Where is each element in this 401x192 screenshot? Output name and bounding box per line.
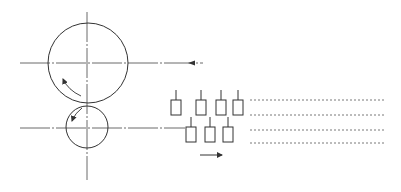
block (223, 117, 233, 142)
block (196, 90, 206, 115)
small-roll-rotation-arrow-icon (72, 108, 82, 121)
block (233, 90, 243, 115)
block (205, 117, 215, 142)
block (186, 117, 196, 142)
rolling-mill-diagram (0, 0, 401, 192)
block (216, 90, 226, 115)
bottom-row-blocks (186, 117, 233, 142)
large-roll-rotation-arrow-icon (63, 79, 81, 96)
dashed-lines (250, 100, 386, 143)
left-arrow-icon (188, 61, 195, 66)
top-row-blocks (171, 90, 243, 115)
block (171, 90, 181, 115)
